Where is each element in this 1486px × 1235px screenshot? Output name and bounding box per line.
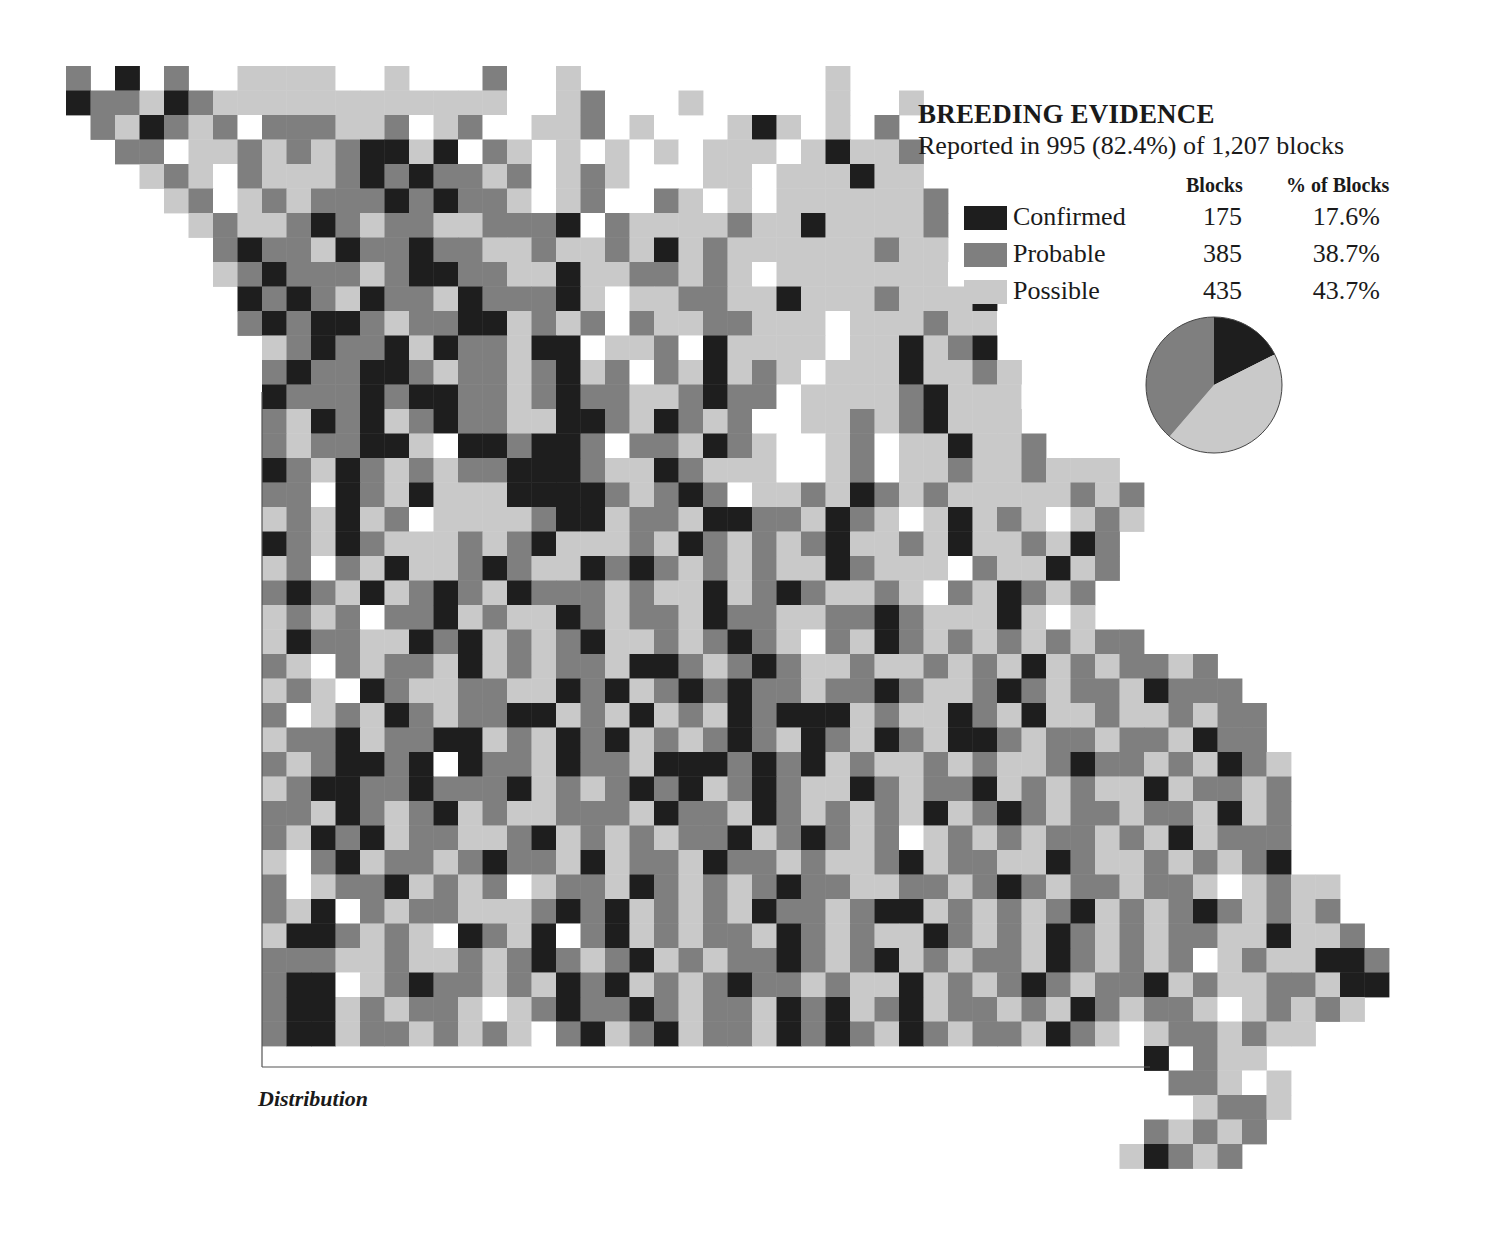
atlas-block — [752, 532, 777, 557]
atlas-block — [1071, 777, 1096, 802]
atlas-block — [777, 948, 802, 973]
atlas-block — [654, 115, 679, 140]
atlas-block — [507, 287, 532, 312]
atlas-block — [287, 287, 312, 312]
atlas-block — [336, 556, 361, 581]
atlas-block — [409, 801, 434, 826]
atlas-block — [311, 924, 336, 949]
atlas-block — [875, 556, 900, 581]
atlas-block — [434, 164, 459, 189]
atlas-block — [385, 91, 410, 116]
legend-label: Possible — [1013, 274, 1100, 308]
atlas-block — [605, 826, 630, 851]
atlas-block — [997, 801, 1022, 826]
atlas-block — [679, 605, 704, 630]
atlas-block — [973, 899, 998, 924]
atlas-block — [262, 360, 287, 385]
atlas-block — [752, 262, 777, 287]
atlas-block — [458, 899, 483, 924]
atlas-block — [973, 948, 998, 973]
atlas-block — [507, 458, 532, 483]
atlas-block — [262, 973, 287, 998]
atlas-block — [630, 336, 655, 361]
atlas-block — [507, 311, 532, 336]
atlas-block — [1046, 777, 1071, 802]
atlas-block — [752, 213, 777, 238]
atlas-block — [287, 360, 312, 385]
atlas-block — [679, 409, 704, 434]
atlas-block — [703, 605, 728, 630]
atlas-block — [728, 336, 753, 361]
atlas-block — [262, 654, 287, 679]
atlas-block — [728, 850, 753, 875]
atlas-block — [483, 581, 508, 606]
atlas-block — [287, 752, 312, 777]
atlas-block — [630, 801, 655, 826]
atlas-block — [850, 409, 875, 434]
atlas-block — [385, 1022, 410, 1047]
atlas-block — [262, 532, 287, 557]
atlas-block — [679, 458, 704, 483]
atlas-block — [1022, 899, 1047, 924]
atlas-block — [458, 262, 483, 287]
atlas-block — [483, 164, 508, 189]
atlas-block — [434, 458, 459, 483]
atlas-block — [360, 948, 385, 973]
atlas-block — [287, 262, 312, 287]
atlas-block — [1144, 752, 1169, 777]
atlas-block — [605, 164, 630, 189]
atlas-block — [703, 728, 728, 753]
atlas-block — [581, 581, 606, 606]
atlas-block — [262, 703, 287, 728]
atlas-block — [654, 899, 679, 924]
atlas-block — [605, 654, 630, 679]
atlas-block — [287, 409, 312, 434]
atlas-block — [1022, 581, 1047, 606]
atlas-block — [336, 66, 361, 91]
atlas-block — [826, 875, 851, 900]
atlas-block — [605, 91, 630, 116]
atlas-block — [752, 140, 777, 165]
atlas-block — [483, 262, 508, 287]
atlas-block — [899, 997, 924, 1022]
atlas-block — [262, 801, 287, 826]
atlas-block — [924, 385, 949, 410]
atlas-block — [483, 997, 508, 1022]
atlas-block — [458, 213, 483, 238]
atlas-block — [605, 777, 630, 802]
atlas-block — [336, 507, 361, 532]
atlas-block — [262, 66, 287, 91]
atlas-block — [1193, 728, 1218, 753]
atlas-block — [973, 728, 998, 753]
atlas-block — [311, 850, 336, 875]
atlas-block — [728, 287, 753, 312]
atlas-block — [458, 630, 483, 655]
atlas-block — [826, 458, 851, 483]
atlas-block — [973, 875, 998, 900]
atlas-block — [850, 238, 875, 263]
atlas-block — [1120, 997, 1145, 1022]
atlas-block — [752, 287, 777, 312]
atlas-block — [1193, 1095, 1218, 1120]
atlas-block — [703, 409, 728, 434]
atlas-block — [507, 409, 532, 434]
atlas-block — [948, 458, 973, 483]
atlas-block — [752, 679, 777, 704]
atlas-block — [1169, 1022, 1194, 1047]
atlas-block — [556, 385, 581, 410]
atlas-block — [703, 1022, 728, 1047]
atlas-block — [581, 777, 606, 802]
atlas-block — [850, 556, 875, 581]
atlas-block — [434, 532, 459, 557]
atlas-block — [679, 924, 704, 949]
atlas-block — [336, 948, 361, 973]
atlas-block — [336, 287, 361, 312]
atlas-block — [997, 556, 1022, 581]
atlas-block — [1046, 532, 1071, 557]
atlas-block — [703, 679, 728, 704]
atlas-block — [507, 262, 532, 287]
atlas-block — [1144, 654, 1169, 679]
atlas-block — [728, 140, 753, 165]
atlas-block — [630, 458, 655, 483]
atlas-block — [630, 164, 655, 189]
